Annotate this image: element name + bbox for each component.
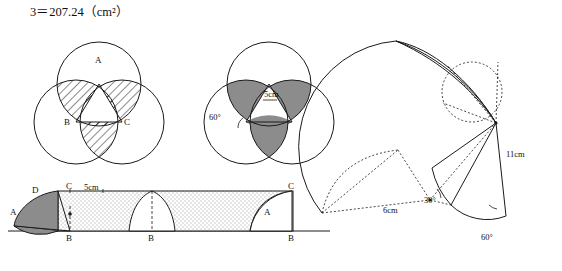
label-point-b-left: B <box>64 118 70 127</box>
label-5cm-bottom: 5cm <box>84 183 99 192</box>
label-point-c-left: C <box>124 118 130 127</box>
label-11cm: 11cm <box>506 150 525 159</box>
arc-60deg <box>238 118 243 128</box>
dotted-base-left <box>322 200 430 213</box>
label-point-a-left: A <box>95 56 102 65</box>
upper-lobe <box>396 41 496 123</box>
upper-lobe-arc <box>396 41 496 123</box>
left-shaded-shape <box>14 191 58 231</box>
figure-canvas: 3＝207.24（cm²） A B C 5cm 60° 11cm 6cm 30°… <box>0 0 562 271</box>
fan-arc-bottom <box>451 205 506 220</box>
label-point-b-bottom-right: B <box>288 234 294 243</box>
label-point-c-bottom-right: C <box>288 182 294 191</box>
arc-60deg-right <box>489 205 497 209</box>
fan-edge-3 <box>432 123 496 168</box>
dotted-radius-2 <box>496 62 498 123</box>
dotted-chord-left <box>322 150 398 213</box>
label-60deg-middle: 60° <box>209 113 221 122</box>
label-point-b-bottom-mid: B <box>148 234 154 243</box>
label-point-c-bottom-left: C <box>66 182 72 191</box>
panel-top-middle <box>204 42 334 164</box>
label-point-b-bottom-left: B <box>66 234 72 243</box>
label-point-a-bottom-right: A <box>264 208 271 217</box>
panel-bottom-strip <box>8 189 330 234</box>
left-marker-dot <box>68 212 72 216</box>
dotted-seg-2 <box>430 123 496 200</box>
fan-edge-1 <box>451 123 496 205</box>
label-6cm: 6cm <box>383 206 398 215</box>
diagram-svg <box>0 0 562 271</box>
outer-sweep-arc <box>299 41 396 213</box>
len-11cm-ref <box>496 123 520 150</box>
panel-right-fan <box>299 41 520 220</box>
fan-edge-2 <box>496 123 506 216</box>
dotted-radius-1 <box>448 66 496 123</box>
label-point-d-bottom: D <box>32 186 39 195</box>
dotted-seg-1 <box>398 150 430 200</box>
label-60deg-right: 60° <box>481 233 493 242</box>
title-formula: 3＝207.24（cm²） <box>30 6 129 19</box>
label-5cm-middle: 5cm <box>264 90 279 99</box>
label-point-a-bottom-left: A <box>10 208 17 217</box>
label-30deg: 30° <box>424 196 436 205</box>
